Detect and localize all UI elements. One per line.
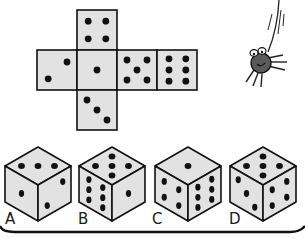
net-face-bottom xyxy=(77,90,117,130)
puzzle-canvas xyxy=(0,0,305,238)
net-face-far_right xyxy=(157,50,197,90)
dice-options xyxy=(5,147,296,221)
net-face-top xyxy=(77,10,117,50)
die-option-c[interactable] xyxy=(155,147,221,221)
die-net xyxy=(37,10,197,130)
option-label-c[interactable]: C xyxy=(152,210,162,228)
net-face-center xyxy=(77,50,117,90)
die-option-b[interactable] xyxy=(79,147,145,221)
net-face-left xyxy=(37,50,77,90)
option-label-a[interactable]: A xyxy=(5,210,15,228)
option-label-d[interactable]: D xyxy=(229,210,241,228)
spider-icon xyxy=(246,0,287,87)
net-face-right xyxy=(117,50,157,90)
option-label-b[interactable]: B xyxy=(78,210,88,228)
